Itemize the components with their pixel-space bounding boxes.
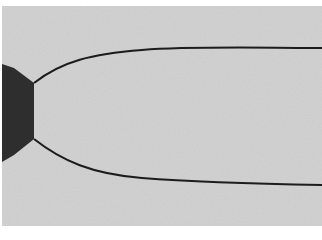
photo-scene — [2, 6, 322, 226]
background-surface — [2, 6, 322, 226]
photo-frame — [2, 6, 322, 226]
